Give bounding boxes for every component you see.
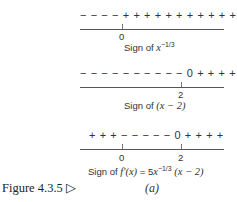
caption-row-3: Sign of f′(x) = 5x−1/3 (x − 2) — [88, 166, 204, 177]
sign-row-3: + + + − − − − − 0 + + + + — [89, 129, 224, 141]
tick-label-1-zero: 0 — [119, 32, 124, 42]
number-line-2 — [80, 87, 224, 88]
caption-exponent: −1/3 — [158, 165, 172, 172]
tick-3-two — [181, 144, 182, 149]
tick-label-2-two: 2 — [178, 90, 183, 100]
figure-label: Figure 4.3.5 ▷ — [2, 180, 76, 196]
figure-sublabel: (a) — [145, 181, 159, 196]
caption-equals: = 5 — [137, 166, 153, 177]
tick-label-3-zero: 0 — [119, 153, 124, 163]
tick-1-zero — [122, 24, 123, 29]
sign-row-2: − − − − − − − − − − 0 + + + + — [80, 67, 236, 79]
tick-label-3-two: 2 — [178, 153, 183, 163]
caption-math: (x − 2) — [156, 100, 185, 111]
caption-row-1: Sign of x−1/3 — [124, 42, 175, 53]
caption-function: f′(x) — [120, 166, 137, 177]
tick-3-zero — [122, 144, 123, 149]
tick-2-two — [181, 82, 182, 87]
caption-prefix: Sign of — [124, 100, 156, 111]
caption-prefix: Sign of — [124, 42, 156, 53]
caption-exponent: −1/3 — [161, 41, 175, 48]
caption-tail: (x − 2) — [172, 166, 204, 177]
number-line-3 — [80, 149, 224, 150]
caption-row-2: Sign of (x − 2) — [124, 100, 185, 111]
sign-row-1: − − − − + + + + + + + + + + + — [80, 9, 237, 21]
number-line-1 — [80, 29, 224, 30]
caption-prefix: Sign of — [88, 166, 120, 177]
